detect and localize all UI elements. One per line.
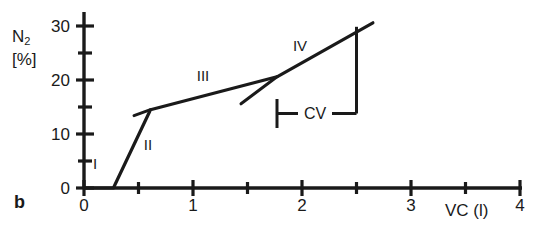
phase-3-label: III bbox=[197, 68, 210, 83]
closing-volume-label: CV bbox=[304, 106, 326, 122]
y-axis-title-line1: N2 bbox=[12, 26, 37, 49]
y-tick-label-10: 10 bbox=[38, 126, 70, 143]
x-tick-label-1: 1 bbox=[188, 197, 197, 214]
x-axis-title: VC (l) bbox=[445, 202, 488, 219]
panel-letter: b bbox=[14, 193, 25, 211]
x-tick-label-4: 4 bbox=[515, 197, 524, 214]
x-tick-label-3: 3 bbox=[406, 197, 415, 214]
y-axis-title-main: N bbox=[12, 27, 24, 46]
x-tick-label-2: 2 bbox=[297, 197, 306, 214]
y-axis-title: N2 [%] bbox=[12, 26, 37, 71]
y-tick-label-30: 30 bbox=[38, 18, 70, 35]
x-tick-label-0: 0 bbox=[79, 197, 88, 214]
y-axis-title-subscript: 2 bbox=[24, 35, 30, 47]
figure-panel: N2 [%] 30 20 10 0 0 1 2 3 4 VC (l) b I I… bbox=[0, 0, 536, 239]
phase-2-label: II bbox=[144, 137, 152, 152]
y-axis-title-units: [%] bbox=[12, 49, 37, 71]
phase-1-label: I bbox=[93, 156, 97, 171]
washout-curve bbox=[84, 23, 373, 188]
y-tick-label-0: 0 bbox=[38, 180, 70, 197]
y-tick-label-20: 20 bbox=[38, 72, 70, 89]
phase-4-label: IV bbox=[293, 38, 307, 53]
